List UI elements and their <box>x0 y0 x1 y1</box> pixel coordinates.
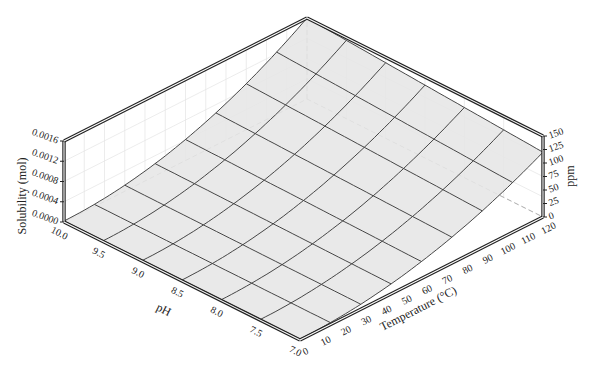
temperature-tick-label: 110 <box>519 230 537 246</box>
ph-tick-label: 7.5 <box>248 323 264 338</box>
z-axis-label-right: ppm <box>563 165 577 187</box>
z-axis-label-left: Solubility (mol) <box>15 157 29 234</box>
z-right-tick-label: 75 <box>547 167 560 181</box>
temperature-tick-label: 20 <box>339 323 353 337</box>
ph-tick-label: 8.0 <box>209 304 225 319</box>
temperature-tick-label: 120 <box>539 220 557 237</box>
solubility-surface <box>64 18 543 339</box>
ph-tick-label: 8.5 <box>170 284 186 299</box>
temperature-tick-label: 100 <box>499 240 517 257</box>
ph-axis-label: pH <box>154 300 174 319</box>
ph-tick-label: 10.0 <box>49 224 70 242</box>
surface-fill <box>64 18 543 339</box>
z-right-tick-label: 50 <box>547 181 560 195</box>
z-left-tick-label: 0.0008 <box>30 166 60 186</box>
surface-plot: 0.00000.00040.00080.00120.00160255075100… <box>0 0 590 368</box>
z-right-tick-label: 125 <box>547 139 565 154</box>
z-left-tick-label: 0.0004 <box>30 187 60 207</box>
z-right-tick-label: 150 <box>547 125 565 140</box>
temperature-tick-label: 0 <box>301 345 310 357</box>
surface-chart: 0.00000.00040.00080.00120.00160255075100… <box>0 0 590 368</box>
temperature-tick-label: 10 <box>319 333 333 347</box>
z-left-tick-label: 0.0012 <box>30 146 60 166</box>
ph-tick-label: 9.0 <box>130 264 146 279</box>
z-left-tick-label: 0.0016 <box>30 126 60 146</box>
ph-tick-label: 7.0 <box>288 343 304 358</box>
temperature-tick-label: 90 <box>481 251 495 265</box>
temperature-tick-label: 80 <box>460 262 474 276</box>
z-right-tick-label: 25 <box>547 194 560 208</box>
ph-tick-label: 9.5 <box>91 245 107 260</box>
temperature-tick-label: 30 <box>359 313 373 327</box>
